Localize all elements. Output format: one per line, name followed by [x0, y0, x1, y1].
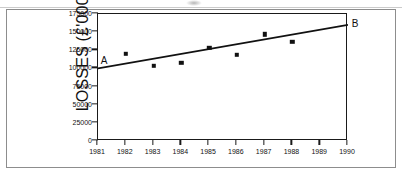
x-tick-label: 1983: [145, 148, 161, 155]
annotation-label-a: A: [101, 54, 108, 65]
y-axis-tick-labels: 0250005000075000100000125000150000175000: [55, 13, 92, 140]
x-tick-mark: [291, 140, 292, 145]
x-tick-label: 1984: [173, 148, 189, 155]
data-point: [290, 39, 294, 43]
y-tick-label: 75000: [73, 82, 92, 89]
y-tick-label: 125000: [69, 46, 92, 53]
data-point: [235, 52, 239, 56]
plot-area: A B: [97, 13, 347, 140]
data-point: [262, 32, 266, 36]
x-axis-tick-labels: 1981198219831984198519861987198819891990: [97, 148, 347, 162]
x-tick-mark: [263, 140, 264, 145]
y-tick-label: 175000: [69, 10, 92, 17]
x-tick-mark: [124, 140, 125, 145]
scan-artifact-line: [0, 7, 402, 8]
x-tick-label: 1982: [117, 148, 133, 155]
data-point: [207, 46, 211, 50]
annotation-label-b: B: [352, 17, 359, 28]
y-tick-label: 100000: [69, 64, 92, 71]
data-point: [151, 63, 155, 67]
data-point: [124, 52, 128, 56]
y-tick-label: 150000: [69, 28, 92, 35]
x-tick-mark: [96, 140, 97, 145]
x-tick-mark: [180, 140, 181, 145]
x-tick-mark: [346, 140, 347, 145]
y-axis-title-container: LOSSES (£'000): [22, 32, 48, 136]
data-point: [179, 60, 183, 64]
x-tick-label: 1987: [256, 148, 272, 155]
x-tick-label: 1981: [89, 148, 105, 155]
x-tick-mark: [152, 140, 153, 145]
y-tick-label: 50000: [73, 100, 92, 107]
x-tick-mark: [235, 140, 236, 145]
x-tick-mark: [319, 140, 320, 145]
y-tick-label: 25000: [73, 118, 92, 125]
x-tick-mark: [207, 140, 208, 145]
x-tick-label: 1990: [339, 148, 355, 155]
x-tick-label: 1988: [284, 148, 300, 155]
x-tick-label: 1985: [200, 148, 216, 155]
x-axis-ticks: [97, 140, 347, 146]
chart-figure: LOSSES (£'000) 0250005000075000100000125…: [0, 0, 402, 175]
x-tick-label: 1989: [311, 148, 327, 155]
data-point-markers: [98, 14, 348, 141]
scan-artifact-smudge: [186, 0, 202, 6]
x-tick-label: 1986: [228, 148, 244, 155]
